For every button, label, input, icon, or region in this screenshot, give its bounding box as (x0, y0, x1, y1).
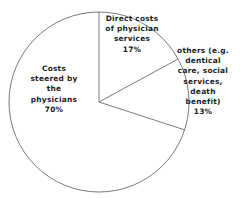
pie-slice-label-direct-costs: Direct costs of physician services 17% (96, 14, 168, 55)
pie-chart-figure: Direct costs of physician services 17% o… (0, 0, 240, 198)
pie-slice-label-others: others (e.g. dentical care, social servi… (170, 46, 236, 117)
pie-slice-label-costs-steered: Costs steered by the physicians 70% (14, 64, 94, 115)
